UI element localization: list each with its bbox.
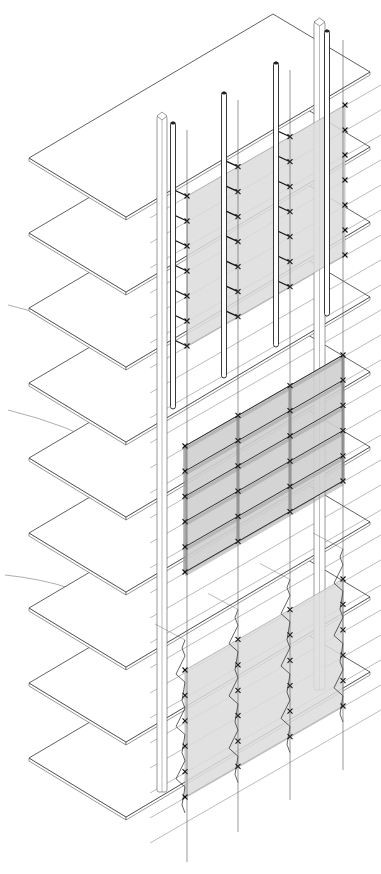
rod-cap (325, 29, 330, 32)
rod-body (222, 92, 227, 378)
rod-cap (171, 121, 176, 124)
hollow-column (157, 112, 167, 792)
rod-body (274, 62, 279, 347)
tube-rod (274, 61, 279, 347)
tube-rod (325, 29, 330, 316)
drawing-canvas (0, 0, 381, 874)
tube-rod (222, 91, 227, 378)
rod-body (171, 122, 176, 409)
facade-axonometric-drawing (0, 0, 381, 874)
rod-body (325, 30, 330, 316)
tube-rod (171, 121, 176, 409)
rod-cap (274, 61, 279, 64)
rod-cap (222, 91, 227, 94)
